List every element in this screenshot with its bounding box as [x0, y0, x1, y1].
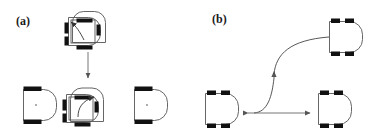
robot-bottom-left-wheel-top — [24, 87, 42, 92]
panel-a-bottom-robot-group — [63, 88, 104, 127]
robot-bottom-left-center-dot — [35, 104, 37, 106]
robot-bottom-right-a-center-dot — [146, 104, 148, 106]
robot-bottom-left-group — [24, 87, 57, 125]
robot-top-right-b-body — [330, 22, 363, 53]
robot-top-center-wheel-left-lower — [65, 37, 69, 46]
robot-top-center-inner-frame — [71, 20, 95, 43]
rotation-arrow-bottom — [78, 97, 94, 117]
panel-a-top-robot-group — [65, 12, 106, 50]
robot-bottom-right-a-wheel-bottom — [135, 120, 153, 125]
robot-bottom-left-b-wheel-rear-top — [221, 91, 230, 96]
robot-bottom-left-b-group — [206, 91, 239, 129]
robot-bottom-right-b-body — [319, 94, 352, 125]
robot-bottom-right-b-wheel-front-bottom — [320, 124, 329, 129]
robot-top-right-b-wheel-rear-bottom — [345, 52, 354, 57]
robot-top-right-b-wheel-front-top — [331, 19, 340, 24]
panel-label-a: (a) — [16, 15, 30, 27]
robot-top-center-wheel-right — [97, 25, 101, 36]
robot-top-right-b-group — [330, 19, 363, 57]
figure-container: (a) (b) — [0, 0, 376, 135]
robot-bottom-right-b-wheel-rear-bottom — [334, 124, 343, 129]
robot-bottom-right-b-wheel-front-top — [320, 91, 329, 96]
robot-bottom-center-wheel-left-lower — [63, 114, 67, 123]
s-curve-path-lower — [254, 78, 274, 113]
robot-top-center-wheel-bottom — [77, 46, 93, 50]
robot-bottom-right-a-body — [135, 90, 168, 121]
figure-svg — [0, 0, 376, 135]
robot-bottom-left-body — [24, 90, 57, 121]
robot-bottom-center-wheel-bottom — [75, 123, 91, 127]
robot-bottom-left-b-wheel-rear-bottom — [221, 124, 230, 129]
robot-top-center-wheel-left-upper — [65, 23, 69, 34]
robot-bottom-left-b-body — [206, 94, 239, 125]
robot-bottom-center-wheel-right — [95, 102, 99, 113]
robot-bottom-center-inner-frame — [69, 97, 93, 120]
robot-bottom-center-wheel-top — [75, 96, 91, 100]
robot-bottom-left-b-wheel-front-top — [207, 91, 216, 96]
robot-top-center-wheel-top — [77, 19, 93, 23]
s-curve-path-upper — [274, 37, 329, 74]
robot-top-right-b-wheel-rear-top — [345, 19, 354, 24]
robot-bottom-right-b-group — [319, 91, 352, 129]
robot-top-right-b-wheel-front-bottom — [331, 52, 340, 57]
robot-bottom-center-wheel-left-upper — [63, 100, 67, 111]
robot-bottom-left-b-wheel-front-bottom — [207, 124, 216, 129]
robot-bottom-right-a-wheel-top — [135, 87, 153, 92]
panel-label-b: (b) — [212, 13, 227, 25]
robot-bottom-left-wheel-bottom — [24, 120, 42, 125]
robot-bottom-right-b-wheel-rear-top — [334, 91, 343, 96]
robot-bottom-right-a-group — [135, 87, 168, 125]
